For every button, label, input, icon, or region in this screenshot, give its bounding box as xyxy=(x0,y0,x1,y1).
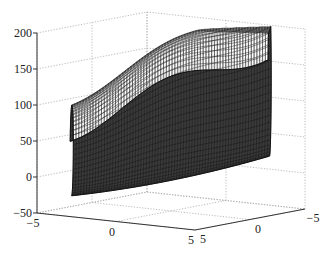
y-tick-label: 5 xyxy=(200,232,206,246)
grid-line xyxy=(92,203,250,220)
surface-mesh xyxy=(70,26,271,195)
surface-fill xyxy=(70,26,271,195)
x-tick-label: −5 xyxy=(27,216,40,230)
y-axis-line xyxy=(195,209,305,230)
x-tick-label: 0 xyxy=(109,225,115,239)
z-tick-label: 150 xyxy=(14,62,32,76)
surface-plot: 200150100500−50 −505 50−5 xyxy=(0,0,328,253)
x-tick-label: 5 xyxy=(188,233,194,247)
z-tick-labels: 200150100500−50 xyxy=(13,26,32,220)
z-tick-label: 50 xyxy=(20,134,32,148)
z-tick-label: 100 xyxy=(14,98,32,112)
y-tick-label: −5 xyxy=(307,211,320,225)
x-axis-line xyxy=(37,213,195,230)
z-tick-label: 0 xyxy=(26,170,32,184)
z-tick-label: 200 xyxy=(14,26,32,40)
y-tick-label: 0 xyxy=(255,222,261,236)
